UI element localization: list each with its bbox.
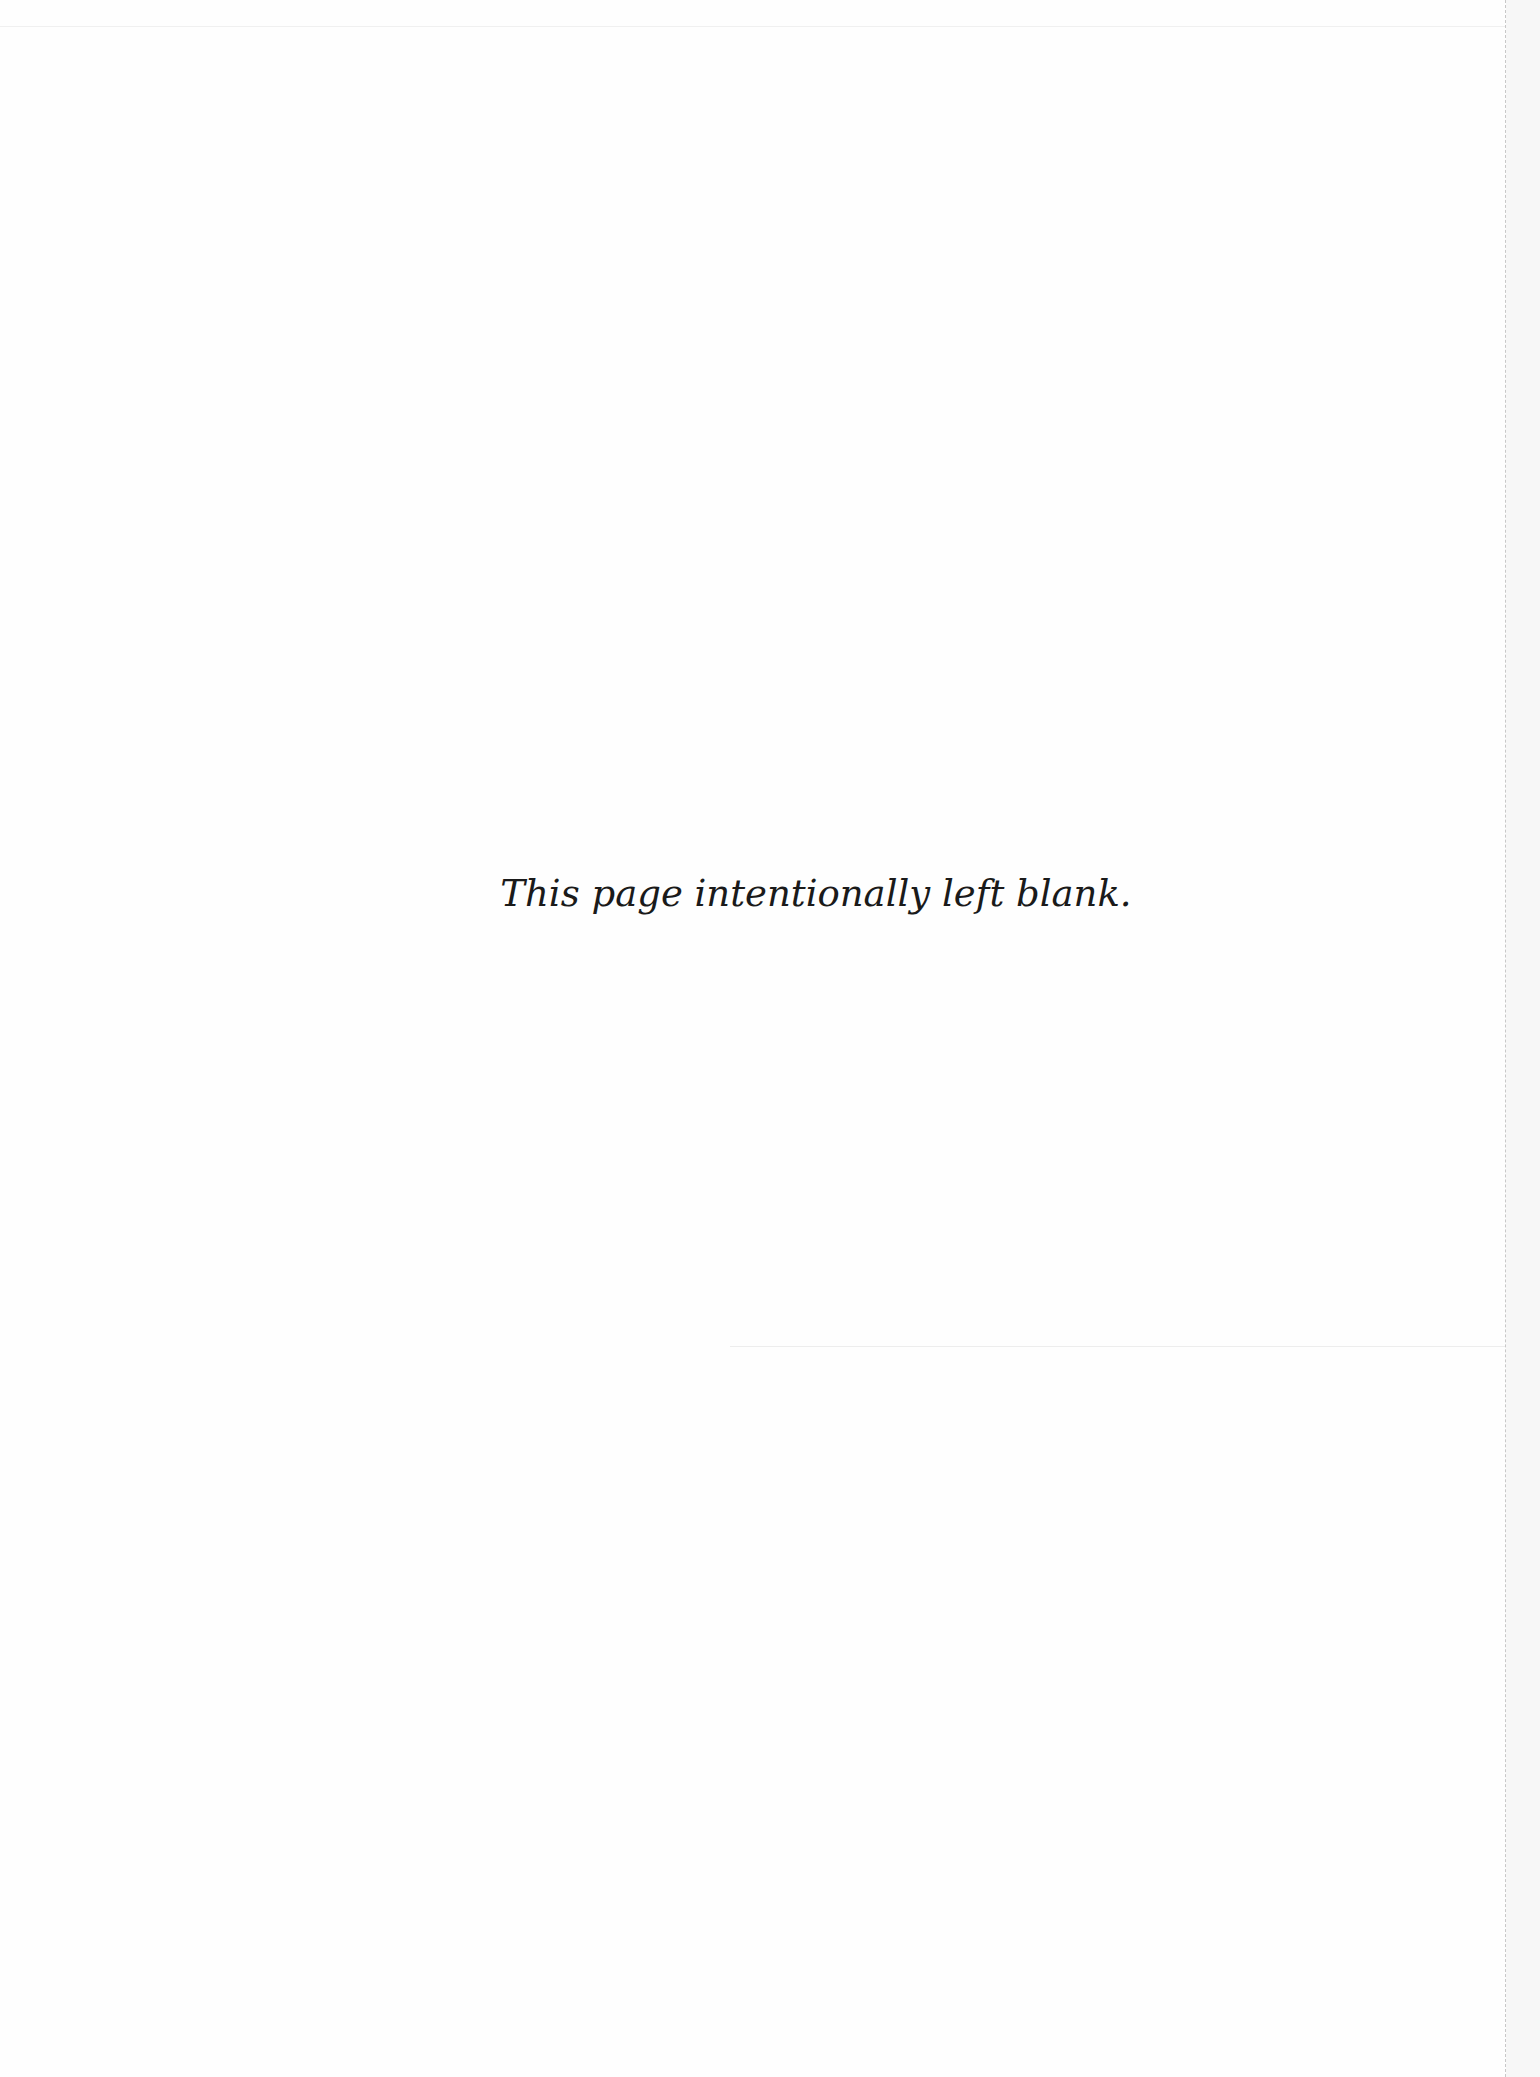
dashed-page-edge [1505, 0, 1506, 2077]
blank-page-notice: This page intentionally left blank. [0, 872, 1540, 915]
blank-page-text: This page intentionally left blank. [500, 872, 1131, 915]
top-scan-edge [0, 26, 1506, 27]
page-margin-strip [1506, 0, 1540, 2077]
faint-scan-line [730, 1346, 1510, 1347]
document-page: This page intentionally left blank. [0, 0, 1540, 2077]
